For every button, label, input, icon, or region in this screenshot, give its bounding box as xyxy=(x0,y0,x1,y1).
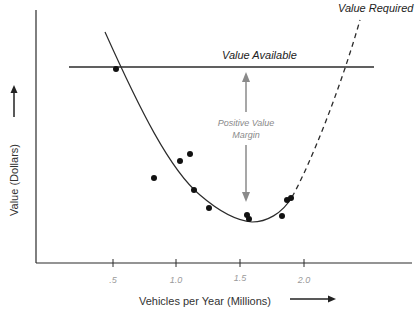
data-point xyxy=(206,205,212,211)
data-point xyxy=(191,187,197,193)
data-point xyxy=(279,213,285,219)
x-direction-arrow-icon xyxy=(290,296,336,303)
data-point xyxy=(177,158,183,164)
x-tick-label: .5 xyxy=(109,275,118,285)
x-axis-title: Vehicles per Year (Millions) xyxy=(139,295,271,307)
x-tick-label: 1.0 xyxy=(170,275,183,285)
data-point xyxy=(246,216,252,222)
value-required-label: Value Required xyxy=(338,2,414,14)
data-point xyxy=(151,175,157,181)
value-vs-volume-diagram: .5 1.0 1.5 2.0 Vehicles per Year (Millio… xyxy=(0,0,420,319)
y-axis-title: Value (Dollars) xyxy=(8,144,20,216)
margin-label-line1: Positive Value xyxy=(218,118,275,128)
y-direction-arrow-icon xyxy=(11,85,18,117)
margin-label-line2: Margin xyxy=(232,130,260,140)
x-tick-label: 2.0 xyxy=(297,275,311,285)
data-point xyxy=(113,66,119,72)
value-available-label: Value Available xyxy=(222,49,297,61)
data-point xyxy=(288,195,294,201)
value-required-dashed xyxy=(292,20,360,197)
data-point xyxy=(187,151,193,157)
x-tick-label: 1.5 xyxy=(234,273,248,283)
